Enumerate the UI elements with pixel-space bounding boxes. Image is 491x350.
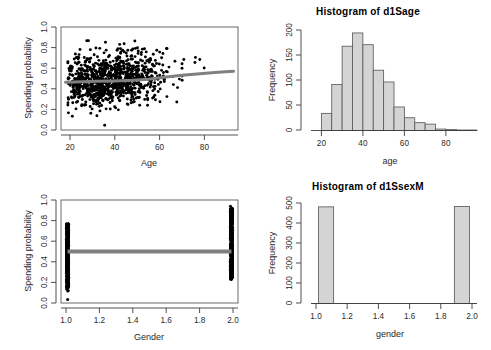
svg-text:0.4: 0.4: [40, 256, 49, 268]
y-axis-top-left: [51, 27, 56, 130]
svg-text:1.0: 1.0: [60, 316, 72, 325]
svg-text:0.2: 0.2: [40, 103, 49, 115]
svg-text:0.6: 0.6: [40, 62, 49, 74]
svg-text:500: 500: [285, 196, 294, 210]
x-tick-labels-top-left: 20 40 60 80: [65, 143, 209, 152]
histogram-bar: [342, 46, 352, 130]
svg-text:1.4: 1.4: [127, 316, 139, 325]
y-axis-top-right: [296, 30, 301, 130]
x-axis-bottom-left: [61, 308, 238, 313]
y-axis-bottom-right: [296, 203, 301, 303]
x-axis-top-right: [311, 131, 477, 137]
x-axis-title-top-right: age: [382, 156, 397, 166]
svg-text:1.8: 1.8: [194, 316, 206, 325]
histogram-gender-svg: 0 100 200 300 400 500 Frequency 1.0 1.: [245, 175, 491, 350]
svg-text:200: 200: [285, 256, 294, 270]
histogram-bar: [394, 107, 404, 131]
histogram-bar: [353, 33, 363, 131]
svg-text:40: 40: [110, 143, 120, 152]
x-axis-title-top-left: Age: [141, 158, 157, 168]
svg-text:80: 80: [441, 139, 451, 148]
histogram-age-svg: 0 50 100 150 200 Frequency 20 40 60: [245, 0, 491, 175]
svg-text:60: 60: [155, 143, 165, 152]
svg-text:1.2: 1.2: [94, 316, 106, 325]
svg-text:60: 60: [400, 139, 410, 148]
svg-text:0.0: 0.0: [40, 124, 49, 136]
x-axis-title-bottom-right: gender: [376, 329, 404, 339]
y-tick-labels-bottom-right: 0 100 200 300 400 500: [285, 196, 294, 306]
histogram-bars-age: [321, 33, 477, 131]
panel-scatter-age: 0.0 0.2 0.4 0.6 0.8 1.0 Spending probabi…: [0, 0, 245, 175]
svg-text:0.4: 0.4: [40, 83, 49, 95]
histogram-bar: [415, 123, 425, 131]
histogram-bars-gender: [311, 206, 477, 303]
svg-text:0.8: 0.8: [40, 41, 49, 53]
svg-text:1.6: 1.6: [404, 312, 416, 321]
y-axis-title-bottom-left: Spending probability: [23, 210, 33, 292]
svg-text:1.4: 1.4: [373, 312, 385, 321]
svg-text:1.0: 1.0: [310, 312, 322, 321]
histogram-bar: [425, 124, 435, 130]
svg-text:100: 100: [285, 276, 294, 290]
svg-text:2.0: 2.0: [466, 312, 478, 321]
histogram-bar: [363, 45, 373, 131]
histogram-bar: [384, 82, 394, 131]
x-tick-labels-top-right: 20 40 60 80: [317, 139, 451, 148]
svg-text:1.0: 1.0: [40, 21, 49, 33]
svg-text:0: 0: [285, 127, 294, 132]
svg-text:20: 20: [317, 139, 327, 148]
y-axis-bottom-left: [51, 200, 56, 303]
y-axis-title-bottom-right: Frequency: [267, 231, 277, 274]
svg-text:1.2: 1.2: [342, 312, 354, 321]
svg-text:20: 20: [65, 143, 75, 152]
histogram-bar: [404, 118, 414, 131]
svg-text:2.0: 2.0: [227, 316, 239, 325]
y-tick-labels-top-left: 0.0 0.2 0.4 0.6 0.8 1.0: [40, 21, 49, 136]
svg-text:0.8: 0.8: [40, 214, 49, 226]
svg-text:300: 300: [285, 236, 294, 250]
svg-text:150: 150: [285, 48, 294, 62]
svg-text:80: 80: [200, 143, 210, 152]
svg-text:40: 40: [358, 139, 368, 148]
y-tick-labels-bottom-left: 0.0 0.2 0.4 0.6 0.8 1.0: [40, 194, 49, 309]
y-axis-title-top-right: Frequency: [267, 58, 277, 101]
svg-text:1.6: 1.6: [161, 316, 173, 325]
x-tick-labels-bottom-left: 1.0 1.2 1.4 1.6 1.8 2.0: [60, 316, 239, 325]
histogram-bar: [454, 206, 469, 303]
histogram-bar: [332, 84, 342, 130]
svg-text:0.0: 0.0: [40, 297, 49, 309]
panel-scatter-gender: 0.0 0.2 0.4 0.6 0.8 1.0 Spending probabi…: [0, 175, 245, 350]
histogram-bar: [373, 70, 383, 130]
histogram-bar: [319, 207, 334, 304]
scatter-age-spending-svg: 0.0 0.2 0.4 0.6 0.8 1.0 Spending probabi…: [0, 0, 245, 175]
x-axis-bottom-right: [311, 304, 477, 310]
panel-histogram-age: Histogram of d1Sage 0 50 100 150 200 Fre…: [245, 0, 491, 175]
svg-text:1.8: 1.8: [435, 312, 447, 321]
svg-text:50: 50: [285, 100, 294, 110]
x-tick-labels-bottom-right: 1.0 1.2 1.4 1.6 1.8 2.0: [310, 312, 478, 321]
x-axis-title-bottom-left: Gender: [134, 332, 164, 342]
svg-text:0: 0: [285, 300, 294, 305]
svg-text:200: 200: [285, 23, 294, 37]
svg-text:100: 100: [285, 73, 294, 87]
panel-histogram-gender: Histogram of d1SsexM 0 100 200 300 400 5…: [245, 175, 491, 350]
svg-text:0.6: 0.6: [40, 235, 49, 247]
svg-text:0.2: 0.2: [40, 276, 49, 288]
y-tick-labels-top-right: 0 50 100 150 200: [285, 23, 294, 133]
svg-text:1.0: 1.0: [40, 194, 49, 206]
x-axis-top-left: [61, 135, 238, 140]
svg-text:400: 400: [285, 216, 294, 230]
plot-grid: 0.0 0.2 0.4 0.6 0.8 1.0 Spending probabi…: [0, 0, 491, 350]
histogram-bar: [321, 113, 331, 130]
scatter-gender-spending-svg: 0.0 0.2 0.4 0.6 0.8 1.0 Spending probabi…: [0, 175, 245, 350]
y-axis-title-top-left: Spending probability: [23, 37, 33, 119]
